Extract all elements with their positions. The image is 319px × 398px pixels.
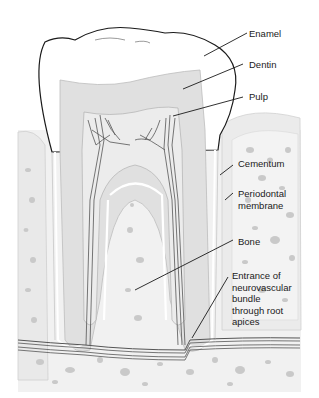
label-cementum: Cementum (238, 158, 284, 170)
label-enamel: Enamel (249, 28, 281, 40)
label-periodontal-membrane: Periodontal membrane (238, 188, 286, 211)
label-pulp: Pulp (249, 91, 268, 103)
label-bone: Bone (238, 236, 260, 248)
label-entrance-neurovascular: Entrance of neurovascular bundle through… (232, 270, 292, 328)
label-dentin: Dentin (249, 59, 276, 71)
